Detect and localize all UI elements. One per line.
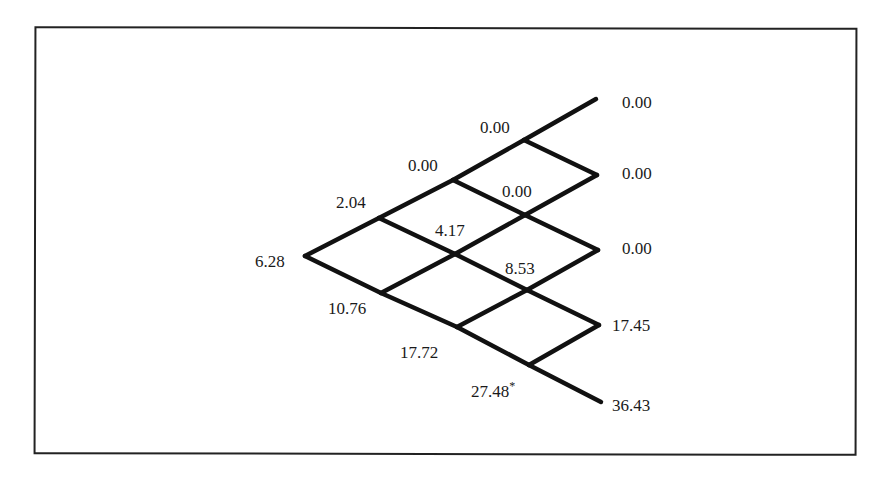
node-value-label: 0.00 xyxy=(622,165,652,183)
tree-edge xyxy=(525,215,598,250)
tree-edge xyxy=(529,325,599,365)
node-value-label: 17.45 xyxy=(612,317,650,335)
node-value: 0.00 xyxy=(480,118,510,137)
node-value-label: 0.00 xyxy=(622,94,652,112)
node-value-label: 0.00 xyxy=(502,183,532,201)
node-value-label: 2.04 xyxy=(336,194,366,212)
node-value: 2.04 xyxy=(336,193,366,212)
node-value: 0.00 xyxy=(408,156,438,175)
node-value: 8.53 xyxy=(505,259,535,278)
tree-edge xyxy=(305,218,379,256)
tree-edge xyxy=(455,215,525,254)
tree-edge xyxy=(379,180,453,218)
node-value-label: 4.17 xyxy=(435,222,465,240)
node-value: 0.00 xyxy=(502,182,532,201)
node-value-label: 8.53 xyxy=(505,260,535,278)
node-value-label: 6.28 xyxy=(255,253,285,271)
tree-edge xyxy=(527,250,598,290)
tree-edge xyxy=(305,256,381,293)
tree-edge xyxy=(453,140,524,180)
node-value: 0.00 xyxy=(622,93,652,112)
node-value: 0.00 xyxy=(622,164,652,183)
node-value-label: 0.00 xyxy=(622,240,652,258)
node-value-label: 17.72 xyxy=(400,344,438,362)
node-value: 36.43 xyxy=(612,396,650,415)
tree-edge xyxy=(381,254,455,293)
node-value: 0.00 xyxy=(622,239,652,258)
node-value: 4.17 xyxy=(435,221,465,240)
early-exercise-marker: * xyxy=(509,379,515,393)
tree-edge xyxy=(381,293,457,327)
tree-edge xyxy=(525,175,597,215)
node-value: 17.45 xyxy=(612,316,650,335)
node-value: 10.76 xyxy=(328,299,366,318)
node-value-label: 0.00 xyxy=(408,157,438,175)
tree-edge xyxy=(457,327,529,365)
node-value-label: 36.43 xyxy=(612,397,650,415)
tree-edge xyxy=(527,290,599,325)
node-value: 6.28 xyxy=(255,252,285,271)
node-value-label: 27.48* xyxy=(471,377,515,401)
tree-edge xyxy=(524,99,596,140)
node-value-label: 10.76 xyxy=(328,300,366,318)
node-value: 27.48 xyxy=(471,382,509,401)
node-value-label: 0.00 xyxy=(480,119,510,137)
tree-edge xyxy=(529,365,601,402)
tree-edge xyxy=(457,290,527,327)
tree-edge xyxy=(524,140,597,175)
node-value: 17.72 xyxy=(400,343,438,362)
